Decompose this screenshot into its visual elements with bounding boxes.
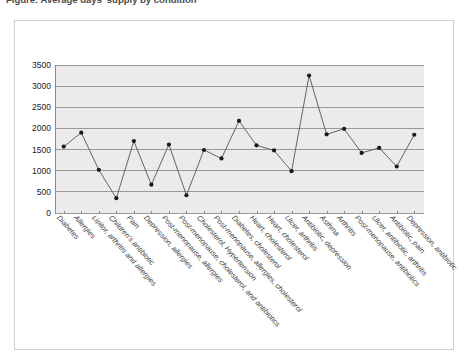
- chart-plot-wrapper: 0500100015002000250030003500 DiabetesAll…: [15, 21, 455, 351]
- data-point: [325, 132, 329, 136]
- data-point: [272, 148, 276, 152]
- x-tick-mark: [116, 211, 117, 214]
- x-tick-mark: [327, 211, 328, 214]
- data-point: [254, 143, 258, 147]
- data-point: [184, 193, 188, 197]
- data-point: [360, 151, 364, 155]
- x-tick-label: Pain: [125, 214, 140, 230]
- data-point: [114, 196, 118, 200]
- data-point: [412, 133, 416, 137]
- page-title: Figure: Average days' supply by conditio…: [0, 0, 470, 7]
- data-point: [62, 145, 66, 149]
- x-tick-mark: [151, 211, 152, 214]
- x-tick-mark: [274, 211, 275, 214]
- data-point: [289, 169, 293, 173]
- data-point: [132, 139, 136, 143]
- x-tick-mark: [257, 211, 258, 214]
- x-tick-mark: [397, 211, 398, 214]
- x-tick-mark: [379, 211, 380, 214]
- x-tick-mark: [186, 211, 187, 214]
- y-tick-label: 500: [17, 188, 51, 197]
- y-tick-label: 2500: [17, 103, 51, 112]
- x-tick-mark: [414, 211, 415, 214]
- x-tick-mark: [344, 211, 345, 214]
- x-tick-mark: [309, 211, 310, 214]
- x-tick-mark: [239, 211, 240, 214]
- data-point: [395, 164, 399, 168]
- x-axis-tick-labels: DiabetesAllergiesLipitor, arthritis and …: [55, 214, 423, 349]
- x-tick-mark: [362, 211, 363, 214]
- figure-title-strip: Figure: Average days' supply by conditio…: [0, 0, 470, 7]
- series-line: [64, 76, 414, 199]
- data-point: [79, 131, 83, 135]
- y-tick-label: 1500: [17, 145, 51, 154]
- x-tick-mark: [169, 211, 170, 214]
- data-point: [219, 156, 223, 160]
- x-tick-mark: [99, 211, 100, 214]
- y-tick-label: 2000: [17, 124, 51, 133]
- x-tick-mark: [134, 211, 135, 214]
- x-tick-mark: [292, 211, 293, 214]
- data-point: [97, 168, 101, 172]
- data-point: [237, 119, 241, 123]
- line-series: [55, 65, 423, 213]
- y-axis-tick-labels: 0500100015002000250030003500: [15, 65, 51, 213]
- y-tick-label: 1000: [17, 166, 51, 175]
- y-tick-label: 3000: [17, 82, 51, 91]
- data-point: [202, 148, 206, 152]
- x-tick-mark: [64, 211, 65, 214]
- y-tick-label: 3500: [17, 61, 51, 70]
- x-tick-mark: [221, 211, 222, 214]
- data-point: [149, 183, 153, 187]
- data-point: [167, 142, 171, 146]
- data-point: [307, 73, 311, 77]
- x-tick-mark: [81, 211, 82, 214]
- data-point: [377, 146, 381, 150]
- chart-card: 0500100015002000250030003500 DiabetesAll…: [14, 20, 454, 350]
- y-tick-label: 0: [17, 209, 51, 218]
- x-tick-mark: [204, 211, 205, 214]
- data-point: [342, 127, 346, 131]
